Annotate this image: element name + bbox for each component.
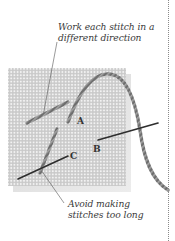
point-label-c: C (70, 151, 77, 161)
annotation-bottom-line1: Avoid making (68, 198, 143, 209)
point-label-a: A (77, 116, 84, 126)
annotation-bottom-line2: stitches too long (68, 209, 143, 220)
annotation-top-line2: different direction (58, 32, 154, 43)
point-label-b: B (93, 144, 101, 154)
needlepoint-canvas (8, 68, 126, 186)
diagram-stage: Work each stitch in a different directio… (0, 0, 175, 241)
dotted-divider (168, 0, 169, 241)
annotation-top-line1: Work each stitch in a (58, 21, 154, 32)
annotation-bottom: Avoid making stitches too long (68, 198, 143, 220)
annotation-top: Work each stitch in a different directio… (58, 21, 154, 43)
